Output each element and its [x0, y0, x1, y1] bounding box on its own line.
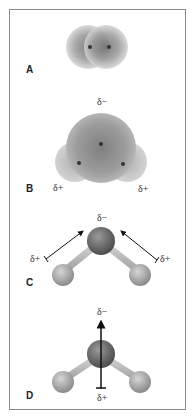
charge-b-right: δ+ — [138, 183, 148, 194]
charge-c-top: δ− — [97, 212, 107, 223]
panel-b-water-cloud — [55, 113, 147, 183]
charge-c-right: δ+ — [160, 253, 170, 264]
hydrogen-atom — [129, 264, 151, 286]
charge-b-top: δ− — [97, 96, 107, 107]
hydrogen-nucleus-dot — [121, 162, 125, 166]
nucleus-dot — [107, 45, 111, 49]
hydrogen-atom — [52, 264, 74, 286]
oxygen-nucleus-dot — [99, 142, 103, 146]
oxygen-atom — [87, 227, 115, 255]
charge-d-top: δ− — [97, 306, 107, 317]
charge-b-left: δ+ — [53, 182, 63, 193]
nucleus-dot — [88, 45, 92, 49]
dipole-arrow-left — [46, 231, 83, 259]
panel-label-b: B — [26, 183, 33, 194]
hydrogen-nucleus-dot — [77, 161, 81, 165]
panel-label-c: C — [26, 277, 33, 288]
hydrogen-atom — [52, 371, 74, 393]
dipole-arrow-right — [121, 231, 157, 260]
panel-label-d: D — [26, 390, 33, 401]
panel-label-a: A — [26, 64, 33, 75]
hydrogen-atom — [129, 371, 151, 393]
charge-d-bottom: δ+ — [97, 392, 107, 403]
water-molecule-diagram — [0, 0, 194, 420]
panel-d-net-dipole — [52, 321, 151, 393]
charge-c-left: δ+ — [30, 253, 40, 264]
panel-a-hydrogen-molecule — [66, 25, 128, 69]
panel-c-ball-stick — [44, 227, 159, 286]
